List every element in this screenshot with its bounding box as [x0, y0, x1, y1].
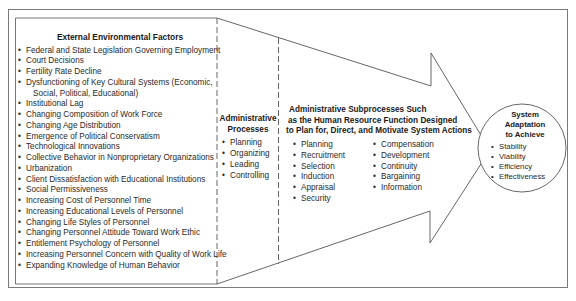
- list-item: Increasing Cost of Personnel Time: [17, 196, 215, 207]
- external-factors-list: Federal and State Legislation Governing …: [17, 46, 215, 272]
- list-item: Entitlement Psychology of Personnel: [17, 239, 215, 250]
- external-factors-title: External Environmental Factors: [17, 32, 215, 43]
- subprocesses-title-line2: as the Human Resource Function Designed: [286, 116, 484, 127]
- adaptation-title: System Adaptation to Achieve: [484, 110, 560, 140]
- external-factors-panel: External Environmental Factors Federal a…: [17, 32, 215, 271]
- subprocesses-title-line3: to Plan for, Direct, and Motivate System…: [286, 126, 484, 137]
- adaptation-list: Stability Viability Efficiency Effective…: [484, 142, 560, 182]
- list-item: Federal and State Legislation Governing …: [17, 46, 215, 57]
- list-item: Fertility Rate Decline: [17, 67, 215, 78]
- list-item: Client Dissatisfaction with Educational …: [17, 175, 215, 186]
- admin-processes-title: Administrative Processes: [218, 114, 278, 135]
- list-item: Leading: [221, 160, 278, 171]
- list-item: Expanding Knowledge of Human Behavior: [17, 261, 215, 272]
- list-item: Efficiency: [490, 162, 560, 172]
- list-item: Dysfunctioning of Key Cultural Systems (…: [17, 78, 215, 89]
- list-item: Continuity: [372, 162, 434, 173]
- list-item: Recruitment: [292, 151, 372, 162]
- list-item: Effectiveness: [490, 172, 560, 182]
- admin-processes-panel: Administrative Processes Planning Organi…: [218, 114, 278, 181]
- list-item: Emergence of Political Conservatism: [17, 132, 215, 143]
- admin-title-line2: Processes: [218, 125, 278, 136]
- list-item: Bargaining: [372, 172, 434, 183]
- list-item: Court Decisions: [17, 56, 215, 67]
- list-item: Social Permissiveness: [17, 185, 215, 196]
- list-item: Controlling: [221, 171, 278, 182]
- list-item: Changing Personnel Attitude Toward Work …: [17, 228, 215, 239]
- subprocesses-title-line1: Administrative Subprocesses Such: [286, 105, 484, 116]
- list-item: Technological Innovations: [17, 142, 215, 153]
- admin-title-line1: Administrative: [218, 114, 278, 125]
- list-item: Planning: [292, 140, 372, 151]
- list-item: Increasing Personnel Concern with Qualit…: [17, 250, 215, 261]
- list-item: Increasing Educational Levels of Personn…: [17, 207, 215, 218]
- list-item: Urbanization: [17, 164, 215, 175]
- list-item: Organizing: [221, 149, 278, 160]
- list-item: Changing Composition of Work Force: [17, 110, 215, 121]
- subprocesses-list-col2: Compensation Development Continuity Barg…: [372, 140, 434, 204]
- list-item: Selection: [292, 162, 372, 173]
- list-item: Collective Behavior in Nonproprietary Or…: [17, 153, 215, 164]
- list-item: Viability: [490, 152, 560, 162]
- list-item: Induction: [292, 172, 372, 183]
- list-item-continuation: Social, Political, Educational): [17, 89, 215, 100]
- list-item: Appraisal: [292, 183, 372, 194]
- list-item: Changing Life Styles of Personnel: [17, 218, 215, 229]
- list-item: Compensation: [372, 140, 434, 151]
- adaptation-title-line3: to Achieve: [490, 130, 560, 140]
- subprocesses-panel: Administrative Subprocesses Such as the …: [284, 105, 484, 204]
- adaptation-title-line2: Adaptation: [490, 120, 560, 130]
- list-item: Development: [372, 151, 434, 162]
- admin-processes-list: Planning Organizing Leading Controlling: [218, 138, 278, 181]
- list-item: Changing Age Distribution: [17, 121, 215, 132]
- list-item: Information: [372, 183, 434, 194]
- subprocesses-list-col1: Planning Recruitment Selection Induction…: [284, 140, 372, 204]
- subprocesses-title: Administrative Subprocesses Such as the …: [284, 105, 484, 137]
- list-item: Institutional Lag: [17, 99, 215, 110]
- list-item: Planning: [221, 138, 278, 149]
- adaptation-title-line1: System: [490, 110, 560, 120]
- list-item: Stability: [490, 142, 560, 152]
- list-item: Security: [292, 194, 372, 205]
- adaptation-panel: System Adaptation to Achieve Stability V…: [484, 110, 560, 182]
- subprocesses-columns: Planning Recruitment Selection Induction…: [284, 140, 484, 204]
